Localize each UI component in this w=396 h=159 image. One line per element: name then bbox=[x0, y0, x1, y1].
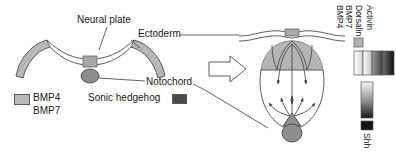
legend-band-dorsalin bbox=[372, 51, 383, 75]
transition-arrow bbox=[209, 56, 246, 82]
leader-notochord-right bbox=[193, 84, 268, 128]
legend-label-shh: Shh bbox=[362, 133, 372, 159]
notochord-left-panel bbox=[81, 69, 99, 83]
leader-neural-plate bbox=[99, 27, 107, 50]
neural-tube-panel bbox=[239, 29, 345, 142]
legend-label-activin: Activin bbox=[365, 5, 375, 45]
legend-band-activin bbox=[383, 51, 394, 75]
label-sonic-hedgehog: Sonic hedgehog bbox=[88, 92, 160, 103]
label-neural-plate: Neural plate bbox=[77, 14, 131, 25]
neural-plate-midline-marker bbox=[83, 56, 97, 67]
ectoderm-wing-right bbox=[131, 40, 165, 78]
leader-notochord-left bbox=[99, 78, 145, 81]
legend-bottom bbox=[361, 82, 373, 130]
legend-label-dorsalin: Dorsalin bbox=[354, 5, 364, 45]
figure-container: Neural plate Ectoderm Notochord Sonic he… bbox=[0, 0, 396, 159]
bmp-key-label-bmp4: BMP4 bbox=[33, 92, 60, 103]
bmp-key-label-bmp7: BMP7 bbox=[33, 105, 60, 116]
label-ectoderm: Ectoderm bbox=[138, 28, 181, 39]
legend-shh-gradient bbox=[361, 82, 373, 118]
ectoderm-sheet-lower bbox=[239, 36, 345, 41]
notochord-tube-panel bbox=[282, 124, 302, 142]
label-notochord: Notochord bbox=[146, 76, 192, 87]
legend-shh-swatch bbox=[361, 121, 373, 130]
tube-roof-plate-marker bbox=[285, 29, 299, 36]
sonic-hedgehog-swatch bbox=[172, 94, 187, 104]
ectoderm-wing-left bbox=[16, 40, 50, 78]
legend-band-bmp4 bbox=[354, 51, 363, 75]
legend-band-bmp7 bbox=[363, 51, 372, 75]
legend-label-bmp7: BMP7 bbox=[344, 5, 354, 45]
bmp-key-swatch bbox=[14, 94, 30, 105]
